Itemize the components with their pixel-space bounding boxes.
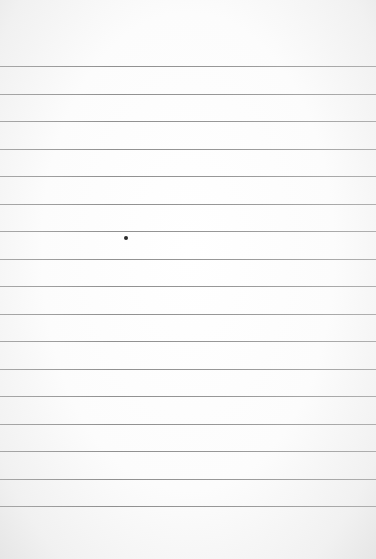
ruled-line [0, 479, 376, 480]
ruled-line [0, 66, 376, 67]
ruled-line [0, 369, 376, 370]
ruled-line [0, 149, 376, 150]
ruled-line [0, 231, 376, 232]
ruled-line [0, 451, 376, 452]
lined-paper [0, 0, 376, 559]
ruled-line [0, 121, 376, 122]
ruled-line [0, 506, 376, 507]
ruled-line [0, 286, 376, 287]
ruled-line [0, 176, 376, 177]
ruled-line [0, 424, 376, 425]
ruled-line [0, 341, 376, 342]
ruled-line [0, 94, 376, 95]
ruled-line [0, 396, 376, 397]
ruled-line [0, 314, 376, 315]
ruled-line [0, 204, 376, 205]
ink-speck [124, 236, 128, 240]
ruled-line [0, 259, 376, 260]
